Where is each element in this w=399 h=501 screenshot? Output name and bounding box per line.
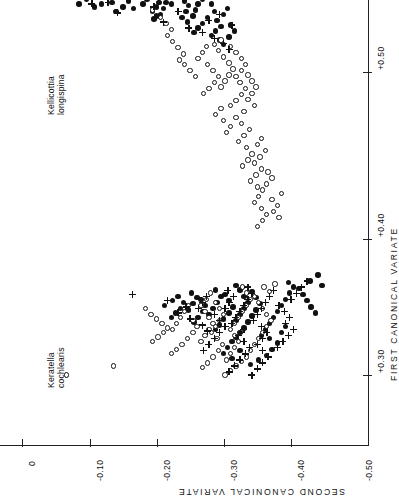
data-point-plus [164, 297, 171, 304]
data-point-open-circle [255, 142, 260, 147]
data-point-open-circle [205, 62, 210, 67]
data-point-open-circle [257, 154, 262, 159]
data-point-open-circle [239, 56, 244, 61]
data-point-open-circle [148, 312, 153, 317]
x-axis-line [368, 0, 369, 446]
data-point-open-circle [243, 86, 248, 91]
data-point-open-circle [252, 103, 257, 108]
data-point-filled-circle [225, 345, 230, 350]
data-point-plus [195, 305, 202, 312]
data-point-open-circle [233, 115, 238, 120]
data-point-open-circle [233, 50, 238, 55]
data-point-filled-circle [131, 6, 136, 11]
data-point-open-circle [175, 45, 180, 50]
data-point-plus [105, 0, 112, 6]
data-point-open-circle [221, 54, 226, 59]
data-point-open-circle [241, 133, 246, 138]
tick-x-040 [363, 239, 372, 240]
data-point-plus [150, 3, 157, 10]
data-point-plus [244, 296, 251, 303]
data-point-plus [226, 368, 233, 375]
ticklabel-y-030: -0.30 [229, 460, 239, 481]
data-point-open-circle [224, 357, 229, 362]
tick-y-030 [224, 439, 225, 447]
tick-y-0 [22, 439, 23, 447]
data-point-filled-circle [99, 1, 104, 6]
data-point-open-circle [174, 321, 179, 326]
data-point-plus [232, 314, 239, 321]
data-point-filled-circle [186, 3, 191, 8]
data-point-plus [228, 320, 235, 327]
data-point-plus [274, 344, 281, 351]
data-point-open-circle [202, 309, 207, 314]
data-point-filled-circle [209, 1, 214, 6]
data-point-plus [270, 287, 277, 294]
data-point-plus [175, 8, 182, 15]
species-label-keratella-line1: Keratella [46, 347, 56, 388]
data-point-filled-circle [315, 272, 320, 277]
data-point-filled-circle [248, 362, 253, 367]
data-point-open-circle [249, 151, 254, 156]
data-point-filled-circle [221, 351, 226, 356]
data-point-filled-circle [213, 287, 218, 292]
data-point-filled-circle [218, 24, 223, 29]
data-point-open-circle [143, 306, 148, 311]
y-axis-line [0, 445, 369, 446]
data-point-open-circle [169, 351, 174, 356]
data-point-filled-circle [193, 7, 198, 12]
data-point-plus [293, 290, 300, 297]
data-point-open-circle [154, 316, 159, 321]
data-point-plus [199, 299, 206, 306]
data-point-plus [226, 299, 233, 306]
data-point-open-circle [170, 327, 175, 332]
data-point-open-circle [181, 51, 186, 56]
data-point-plus [187, 315, 194, 322]
ticklabel-x-030: +0.30 [376, 349, 386, 373]
data-point-plus [199, 29, 206, 36]
data-point-filled-circle [229, 339, 234, 344]
data-point-open-circle [264, 312, 269, 317]
data-point-plus [228, 22, 235, 29]
data-point-filled-circle [286, 280, 291, 285]
data-point-open-circle [260, 218, 265, 223]
data-point-open-circle [210, 354, 215, 359]
data-point-filled-circle [200, 0, 205, 2]
data-point-open-circle [275, 203, 280, 208]
data-point-open-circle [195, 56, 200, 61]
data-point-filled-circle [161, 6, 166, 11]
data-point-plus [88, 0, 95, 7]
data-point-open-circle [259, 206, 264, 211]
data-point-open-circle [268, 318, 273, 323]
data-point-open-circle [212, 42, 217, 47]
data-point-plus [226, 46, 233, 53]
data-point-open-circle [261, 284, 266, 289]
data-point-filled-circle [232, 28, 237, 33]
data-point-plus [183, 303, 190, 310]
data-point-open-circle [245, 72, 250, 77]
data-point-open-circle [237, 80, 242, 85]
data-point-plus [203, 293, 210, 300]
data-point-open-circle [193, 74, 198, 79]
data-point-filled-circle [144, 0, 149, 2]
data-point-open-circle [182, 62, 187, 67]
data-point-open-circle [279, 191, 284, 196]
data-point-open-circle [249, 91, 254, 96]
data-point-open-circle [247, 127, 252, 132]
data-point-plus [254, 311, 261, 318]
data-point-plus [248, 372, 255, 379]
data-point-open-circle [174, 347, 179, 352]
data-point-filled-circle [308, 304, 313, 309]
data-point-open-circle [239, 121, 244, 126]
data-point-open-circle [239, 68, 244, 73]
data-point-open-circle [170, 39, 175, 44]
data-point-open-circle [226, 60, 231, 65]
data-point-open-circle [249, 78, 254, 83]
data-point-plus [304, 278, 311, 285]
data-point-filled-circle [76, 1, 81, 6]
data-point-filled-circle [214, 18, 219, 23]
data-point-plus [258, 305, 265, 312]
data-point-open-circle [222, 78, 227, 83]
data-point-open-circle [169, 27, 174, 32]
data-point-open-circle [252, 200, 257, 205]
data-point-open-circle [230, 66, 235, 71]
